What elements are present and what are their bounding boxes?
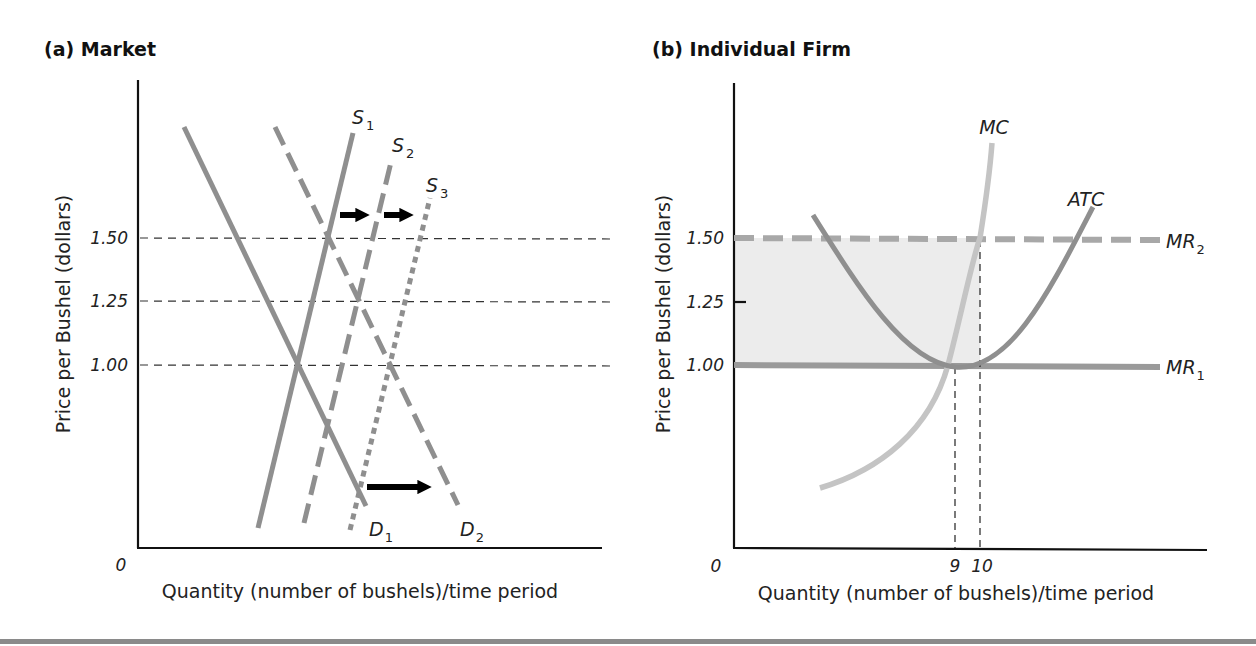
label-d1: D1 [369,518,393,545]
label-mc: MC [979,116,1009,138]
mr2-line [734,238,1160,240]
figure: (a) Market 1.50 1.25 1.00 0 Price per Bu… [0,0,1256,646]
xtick-10: 10 [971,556,993,576]
curves-a [184,127,458,530]
y-axis-label: Price per Bushel (dollars) [52,195,74,433]
ytick-b-1-25: 1.25 [686,292,724,312]
ytick-b-1-50: 1.50 [686,228,724,248]
price-guides [140,238,616,366]
label-mr1: MR1 [1166,356,1205,383]
label-s3: S3 [426,174,448,201]
panel-a-title: (a) Market [44,38,156,60]
bottom-rule [0,639,1256,644]
xtick-9: 9 [950,556,961,576]
label-s1: S1 [352,106,374,133]
ytick-1-50: 1.50 [90,228,128,248]
label-mr2: MR2 [1166,230,1205,257]
ytick-b-1-00: 1.00 [686,355,724,375]
y-axis-label-b: Price per Bushel (dollars) [652,195,674,433]
label-atc: ATC [1066,188,1105,210]
x-axis-label: Quantity (number of bushels)/time period [162,580,558,602]
panel-market: (a) Market 1.50 1.25 1.00 0 Price per Bu… [44,38,616,602]
supply-s3 [350,198,430,530]
panel-individual-firm: (b) Individual Firm 1.50 1.25 1.00 0 9 1… [652,38,1207,604]
label-s2: S2 [392,134,414,161]
origin-label: 0 [116,555,127,575]
axes-a [137,80,602,548]
ytick-1-00: 1.00 [90,355,128,375]
ytick-1-25: 1.25 [90,291,128,311]
origin-label-b: 0 [711,556,722,576]
label-d2: D2 [460,518,484,545]
x-axis-label-b: Quantity (number of bushels)/time period [758,582,1154,604]
profit-area [734,238,980,365]
panel-b-title: (b) Individual Firm [652,38,851,60]
